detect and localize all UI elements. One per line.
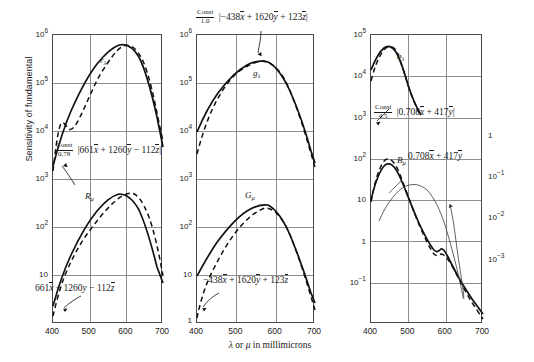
curve-G-mu-solid — [197, 205, 315, 303]
ytick-p3r-1: 1 — [488, 131, 492, 140]
curve-R-mu-dashed — [53, 193, 163, 316]
annotation-panel-3-bottom: 0.708x + 417y — [408, 151, 462, 161]
curve-G-mu-dashed — [197, 208, 315, 318]
ytick-p3r-1e-1: 10−1 — [488, 172, 504, 181]
leader-arrow-top — [63, 163, 68, 167]
const-fraction-1: Const 0.78 — [55, 142, 73, 159]
x-axis-label: λ or μ in millimicrons — [185, 340, 355, 350]
ytick-p3-1e2: 102 — [336, 154, 366, 163]
curve-label-G-mu: Gμ — [245, 190, 255, 200]
plot-panel-3: bλ Bμ — [370, 34, 482, 323]
curve-thin-loop — [379, 184, 464, 298]
annotation-panel-1-top: Const 0.78 |661x + 1260y − 112z| — [55, 142, 161, 159]
leader-line-bottom-2 — [203, 293, 219, 307]
ytick-p2-1e4: 104 — [160, 126, 192, 135]
ytick-p3r-1e-3: 10−3 — [488, 255, 504, 264]
ytick-p3-1e5: 105 — [336, 30, 366, 39]
panel-1-curves — [53, 35, 163, 324]
annotation-panel-2-expr: |−438x + 1620y + 123z| — [219, 12, 308, 22]
curve-label-r-lambda: rλ — [100, 55, 106, 65]
ytick-p3r-1e-2: 10−2 — [488, 213, 504, 222]
xtick-p1-400: 400 — [37, 326, 67, 336]
ytick-p2-1e6: 106 — [160, 30, 192, 39]
curve-label-R-mu: Rμ — [85, 191, 94, 201]
xtick-p2-400: 400 — [181, 326, 211, 336]
annotation-panel-2-bottom: −438x + 1620y + 123z — [203, 275, 288, 285]
ytick-p1-10: 10 — [14, 270, 48, 279]
curve-label-B-mu: Bμ — [397, 155, 406, 165]
xtick-p1-600: 600 — [110, 326, 140, 336]
xtick-p3-700: 700 — [467, 326, 497, 336]
ytick-p2-10: 10 — [160, 270, 192, 279]
leader-arrow-bottom-2 — [202, 308, 207, 312]
const-fraction-2: Const 1.0 — [196, 9, 214, 26]
annotation-panel-3-top: Const 4.5 |0.708x + 417y| — [374, 104, 455, 121]
plot-panel-1: rλ Rμ — [52, 34, 162, 323]
x-axis-label-tail: in millimicrons — [250, 340, 311, 350]
curve-label-b-lambda: bλ — [397, 51, 404, 61]
x-axis-label-mid: or — [233, 340, 246, 350]
ytick-p3-10: 10 — [336, 195, 366, 204]
leader-line-top-2 — [258, 31, 261, 53]
xtick-p2-700: 700 — [299, 326, 329, 336]
annotation-panel-2-top: Const 1.0 |−438x + 1620y + 123z| — [196, 9, 308, 26]
curve-label-g-lambda: gλ — [253, 68, 260, 78]
ytick-p2-1e2: 102 — [160, 222, 192, 231]
xtick-p3-600: 600 — [430, 326, 460, 336]
ytick-p1-1e5: 105 — [14, 78, 48, 87]
y-axis-label: Sensitivity of fundamental — [24, 24, 34, 194]
xtick-p2-500: 500 — [220, 326, 250, 336]
leader-line-top — [62, 166, 75, 185]
const-fraction-3: Const 4.5 — [374, 104, 392, 121]
panel-3-curves — [371, 35, 483, 324]
leader-arrow-bottom — [63, 308, 68, 312]
ytick-p2-1e3: 103 — [160, 174, 192, 183]
xtick-p1-700: 700 — [147, 326, 177, 336]
ytick-p3-1e3: 103 — [336, 113, 366, 122]
ytick-p1-1e2: 102 — [14, 222, 48, 231]
ytick-p3-1: 1 — [336, 237, 366, 246]
xtick-p3-500: 500 — [392, 326, 422, 336]
ytick-p3-1e-1: 10−1 — [332, 278, 366, 287]
leader-arrow-top-3 — [376, 122, 381, 126]
ytick-p2-1e5: 105 — [160, 78, 192, 87]
figure-root: Sensitivity of fundamental λ or μ in mil… — [0, 0, 534, 362]
xtick-p1-500: 500 — [74, 326, 104, 336]
xtick-p2-600: 600 — [260, 326, 290, 336]
xtick-p3-400: 400 — [355, 326, 385, 336]
leader-line-mid-3 — [389, 181, 401, 193]
ytick-p1-1e6: 106 — [14, 30, 48, 39]
ytick-p2-1: 1 — [160, 316, 192, 325]
annotation-panel-1-bottom: 661x + 1260y − 112z — [35, 283, 115, 293]
ytick-p1-1e4: 104 — [14, 126, 48, 135]
leader-line-bottom — [64, 296, 81, 308]
annotation-panel-3-expr: |0.708x + 417y| — [397, 107, 455, 117]
ytick-p3-1e4: 104 — [336, 71, 366, 80]
ytick-p1-1e3: 103 — [14, 174, 48, 183]
annotation-panel-1-expr: |661x + 1260y − 112z| — [78, 145, 161, 155]
